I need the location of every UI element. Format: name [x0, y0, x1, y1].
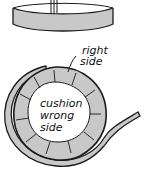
label-cushion: cushion — [40, 98, 82, 109]
label-side-inner: side — [40, 122, 63, 133]
top-cylinder-figure — [13, 0, 113, 31]
label-side: side — [80, 56, 103, 67]
illustration: right side cushion wrong side — [0, 0, 145, 176]
label-wrong: wrong — [40, 110, 74, 121]
cushion-diagram — [0, 0, 145, 176]
